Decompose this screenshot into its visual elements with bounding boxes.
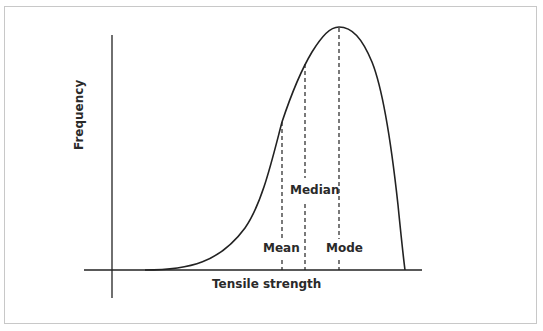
distribution-curve: [145, 27, 405, 270]
x-axis-label: Tensile strength: [212, 277, 321, 291]
median-label: Median: [290, 183, 339, 197]
y-axis-label: Frequency: [72, 80, 86, 150]
mode-label: Mode: [326, 241, 363, 255]
mean-label: Mean: [263, 241, 300, 255]
